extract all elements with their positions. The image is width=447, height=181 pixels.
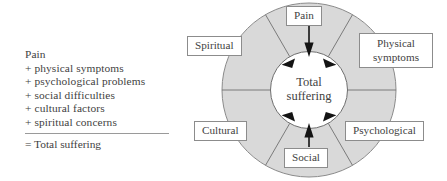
center-label-line2: suffering (287, 89, 333, 103)
equation-divider (25, 133, 169, 134)
wheel-label-physical-symptoms[interactable]: Physical symptoms (359, 33, 433, 68)
center-label-line1: Total (296, 75, 322, 89)
wheel-label-text: Cultural (202, 124, 239, 136)
equation-total: = Total suffering (25, 138, 175, 152)
equation-line: + spiritual concerns (25, 116, 175, 130)
equation-line: + cultural factors (25, 102, 175, 116)
wheel-label-text: Physical symptoms (373, 37, 419, 63)
suffering-equation: Pain + physical symptoms + psychological… (25, 48, 175, 151)
wheel-label-text: Pain (294, 9, 314, 21)
equation-line: + psychological problems (25, 75, 175, 89)
wheel-label-spiritual[interactable]: Spiritual (187, 36, 242, 56)
wheel-label-text: Social (292, 151, 320, 163)
wheel-label-pain[interactable]: Pain (286, 6, 322, 26)
wheel-label-text: Spiritual (195, 39, 234, 51)
equation-line: + social difficulties (25, 89, 175, 103)
wheel-label-text: Psychological (353, 124, 416, 136)
total-suffering-figure: Pain + physical symptoms + psychological… (0, 0, 447, 181)
equation-line: Pain (25, 48, 175, 62)
equation-line: + physical symptoms (25, 62, 175, 76)
wheel-label-social[interactable]: Social (284, 148, 328, 168)
wheel-label-cultural[interactable]: Cultural (194, 121, 247, 141)
wheel-label-psychological[interactable]: Psychological (345, 121, 424, 141)
